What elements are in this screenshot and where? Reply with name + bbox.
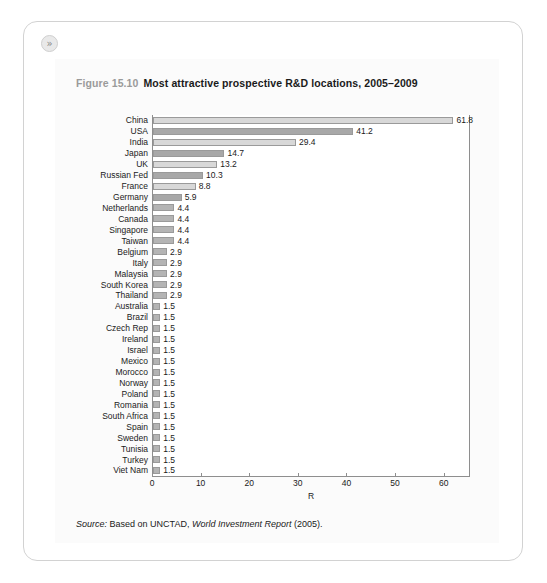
bar-value-label: 2.9 [170, 258, 182, 268]
bar-value-label: 1.5 [163, 334, 175, 344]
x-tick-mark [152, 473, 153, 477]
bar-row: France8.8 [153, 181, 469, 192]
bar-value-label: 41.2 [356, 126, 373, 136]
bar-row: Russian Fed10.3 [153, 170, 469, 181]
expand-chevron-icon[interactable]: » [41, 35, 58, 52]
bar-row: Ireland1.5 [153, 334, 469, 345]
category-label: India [130, 137, 148, 147]
bar-row: UK13.2 [153, 159, 469, 170]
category-label: Israel [127, 345, 148, 355]
category-label: UK [136, 159, 148, 169]
bar [153, 390, 160, 397]
x-axis: R 0102030405060 [152, 477, 470, 505]
category-label: Romania [114, 400, 148, 410]
bar-row: Turkey1.5 [153, 454, 469, 465]
bar-row: Sweden1.5 [153, 432, 469, 443]
x-tick-label: 20 [244, 478, 253, 488]
bar-row: Germany5.9 [153, 192, 469, 203]
bar-row: Australia1.5 [153, 301, 469, 312]
bar-row: Spain1.5 [153, 421, 469, 432]
category-label: South Korea [101, 280, 148, 290]
bar [153, 314, 160, 321]
bar-row: Canada4.4 [153, 213, 469, 224]
bar [153, 161, 217, 168]
bar-value-label: 1.5 [163, 378, 175, 388]
bar-row: USA41.2 [153, 126, 469, 137]
bar [153, 347, 160, 354]
bar [153, 117, 453, 124]
bar-row: Thailand2.9 [153, 290, 469, 301]
bar-value-label: 1.5 [163, 422, 175, 432]
category-label: China [126, 115, 148, 125]
figure-caption: Figure 15.10Most attractive prospective … [76, 77, 480, 89]
bar-value-label: 1.5 [163, 433, 175, 443]
source-publication: World Investment Report [192, 519, 292, 529]
bar-value-label: 10.3 [206, 170, 223, 180]
bar-value-label: 1.5 [163, 312, 175, 322]
source-text-after: (2005). [291, 519, 322, 529]
category-label: Thailand [115, 290, 148, 300]
bar-value-label: 1.5 [163, 367, 175, 377]
bar-value-label: 13.2 [220, 159, 237, 169]
category-label: Canada [118, 214, 148, 224]
category-label: Mexico [121, 356, 148, 366]
figure-number: Figure 15.10 [76, 77, 138, 89]
bar [153, 401, 160, 408]
bar-value-label: 4.4 [177, 225, 189, 235]
bar-row: Poland1.5 [153, 388, 469, 399]
bar [153, 183, 196, 190]
category-label: Morocco [115, 367, 148, 377]
bar-value-label: 1.5 [163, 455, 175, 465]
category-label: Czech Rep [106, 323, 148, 333]
bar [153, 172, 203, 179]
bar-value-label: 5.9 [185, 192, 197, 202]
category-label: Ireland [122, 334, 148, 344]
category-label: Brazil [127, 312, 148, 322]
x-tick-label: 40 [342, 478, 351, 488]
bar-value-label: 61.8 [456, 115, 473, 125]
bar [153, 325, 160, 332]
bar [153, 194, 182, 201]
category-label: South Africa [102, 411, 148, 421]
bar-value-label: 1.5 [163, 345, 175, 355]
source-label: Source: [76, 519, 107, 529]
category-label: USA [131, 126, 148, 136]
bar-value-label: 4.4 [177, 214, 189, 224]
bar-value-label: 1.5 [163, 400, 175, 410]
category-label: Belgium [117, 247, 148, 257]
category-label: Turkey [122, 455, 148, 465]
bar-value-label: 2.9 [170, 290, 182, 300]
bar-row: India29.4 [153, 137, 469, 148]
bar-value-label: 1.5 [163, 411, 175, 421]
bar-row: Romania1.5 [153, 399, 469, 410]
bar-value-label: 2.9 [170, 280, 182, 290]
bar-row: Taiwan4.4 [153, 235, 469, 246]
category-label: Italy [132, 258, 148, 268]
figure-card: » Figure 15.10Most attractive prospectiv… [23, 21, 523, 561]
source-note: Source: Based on UNCTAD, World Investmen… [76, 519, 322, 529]
figure-panel: Figure 15.10Most attractive prospective … [55, 59, 499, 543]
bar-row: Italy2.9 [153, 257, 469, 268]
bar [153, 358, 160, 365]
category-label: Sweden [117, 433, 148, 443]
bar [153, 467, 160, 474]
bar [153, 204, 174, 211]
category-label: Australia [115, 301, 148, 311]
category-label: Viet Nam [113, 465, 148, 475]
bar [153, 248, 167, 255]
bar-row: Morocco1.5 [153, 367, 469, 378]
bar [153, 237, 174, 244]
bar [153, 336, 160, 343]
chart-container: China61.8USA41.2India29.4Japan14.7UK13.2… [69, 107, 487, 505]
bar-row: Singapore4.4 [153, 224, 469, 235]
bar-row: Tunisia1.5 [153, 443, 469, 454]
category-label: Singapore [109, 225, 148, 235]
category-label: Russian Fed [100, 170, 148, 180]
bar [153, 412, 160, 419]
bar [153, 445, 160, 452]
bar [153, 139, 296, 146]
category-label: Spain [126, 422, 148, 432]
bar-row: South Africa1.5 [153, 410, 469, 421]
bar-value-label: 2.9 [170, 247, 182, 257]
category-label: Norway [119, 378, 148, 388]
